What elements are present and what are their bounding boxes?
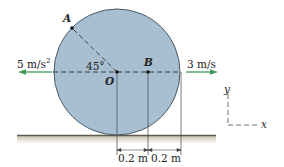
velocity-arrow-head (210, 69, 218, 75)
label-B: B (144, 57, 153, 68)
velocity-label: 3 m/s (187, 59, 216, 70)
point-A (70, 26, 74, 30)
dimension-label-1: 0.2 m (118, 153, 148, 164)
acceleration-exponent: 2 (46, 57, 50, 65)
angle-label: 45° (86, 61, 105, 72)
acceleration-label: 5 m/s2 (17, 59, 50, 70)
ground-shadow (17, 136, 216, 144)
dimension-label-2: 0.2 m (151, 153, 181, 164)
label-O: O (105, 76, 114, 87)
label-A: A (63, 13, 71, 24)
axis-x-label: x (261, 119, 267, 130)
axis-y-label: y (224, 84, 230, 95)
acceleration-value: 5 m/s (17, 58, 46, 70)
acceleration-arrow-head (18, 69, 26, 75)
coordinate-axes (228, 94, 258, 125)
rolling-disk-diagram (0, 0, 284, 167)
point-B (146, 70, 150, 74)
point-O (115, 70, 119, 74)
